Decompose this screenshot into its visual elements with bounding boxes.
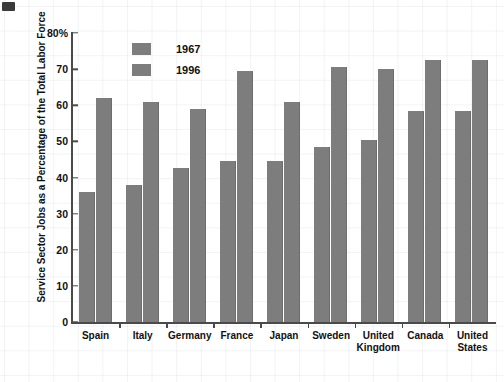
y-tick-label: 40 <box>34 172 68 183</box>
bar-united-states-1996 <box>472 60 488 322</box>
bar-united-kingdom-1996 <box>378 69 394 322</box>
category-label-united-kingdom: United Kingdom <box>355 330 402 354</box>
x-tick-mark <box>213 322 214 328</box>
y-axis-tick-labels: 01020304050607080% <box>28 0 68 382</box>
legend-swatch-1996 <box>132 64 151 76</box>
bar-japan-1996 <box>284 102 300 322</box>
y-tick-label: 0 <box>34 317 68 328</box>
y-tick-label: 60 <box>34 100 68 111</box>
y-tick-label: 70 <box>34 64 68 75</box>
y-tick-label: 50 <box>34 136 68 147</box>
bar-japan-1967 <box>267 161 283 322</box>
bar-germany-1967 <box>173 168 189 322</box>
bar-sweden-1996 <box>331 67 347 322</box>
legend-item-1996: 1996 <box>132 61 252 78</box>
legend-swatch-1967 <box>132 43 151 55</box>
bar-united-states-1967 <box>455 111 471 322</box>
x-tick-mark <box>166 322 167 328</box>
x-axis-line <box>71 322 496 324</box>
category-label-sweden: Sweden <box>308 330 355 342</box>
category-label-united-states: United States <box>449 330 496 354</box>
bar-italy-1996 <box>143 102 159 322</box>
bar-united-kingdom-1967 <box>361 140 377 322</box>
category-label-france: France <box>213 330 260 342</box>
category-label-germany: Germany <box>166 330 213 342</box>
y-tick-label: 20 <box>34 245 68 256</box>
category-label-italy: Italy <box>119 330 166 342</box>
x-tick-mark <box>119 322 120 328</box>
x-tick-mark <box>260 322 261 328</box>
x-tick-mark <box>355 322 356 328</box>
bar-canada-1996 <box>425 60 441 322</box>
y-tick-label: 80% <box>34 28 68 39</box>
legend-label-1996: 1996 <box>176 64 200 76</box>
chart-legend: 1967 1996 <box>132 40 252 82</box>
x-tick-mark <box>402 322 403 328</box>
category-label-spain: Spain <box>72 330 119 342</box>
bar-canada-1967 <box>408 111 424 322</box>
bar-italy-1967 <box>126 185 142 322</box>
legend-item-1967: 1967 <box>132 40 252 57</box>
category-label-canada: Canada <box>402 330 449 342</box>
y-tick-label: 30 <box>34 208 68 219</box>
bar-sweden-1967 <box>314 147 330 322</box>
x-tick-mark <box>308 322 309 328</box>
bar-chart: Service Sector Jobs as a Percentage of t… <box>0 0 504 382</box>
bar-germany-1996 <box>190 109 206 322</box>
y-axis-line <box>71 32 73 323</box>
category-label-japan: Japan <box>260 330 307 342</box>
x-tick-mark <box>449 322 450 328</box>
chart-page: Service Sector Jobs as a Percentage of t… <box>0 0 504 382</box>
y-tick-label: 10 <box>34 281 68 292</box>
bar-spain-1967 <box>79 192 95 322</box>
bar-spain-1996 <box>96 98 112 322</box>
bar-france-1996 <box>237 71 253 322</box>
legend-label-1967: 1967 <box>176 43 200 55</box>
bar-france-1967 <box>220 161 236 322</box>
